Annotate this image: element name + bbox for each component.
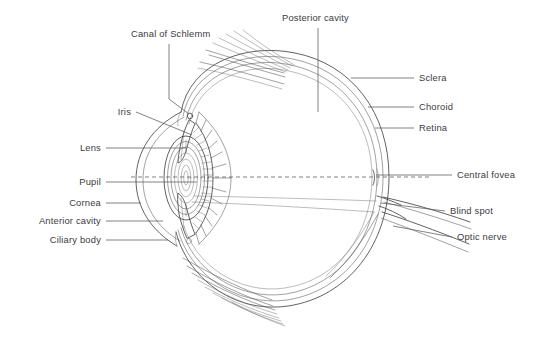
- muscle-fibre: [192, 273, 275, 310]
- iris-upper-fold: [181, 130, 184, 160]
- retinal-vessel-upper: [194, 196, 376, 201]
- label-canal-of-schlemm: Canal of Schlemm: [131, 28, 210, 39]
- muscle-fibre: [206, 50, 284, 73]
- leader-lines: [106, 28, 452, 240]
- ciliary-process: [196, 112, 199, 123]
- muscle-fibre: [198, 68, 282, 89]
- lens-lamella-4: [178, 159, 194, 197]
- leader-canal-of-schlemm: [169, 44, 189, 114]
- ciliary-process: [205, 130, 212, 140]
- ciliary-process: [211, 152, 222, 158]
- retinal-vessel-lower: [192, 202, 374, 212]
- label-retina: Retina: [419, 122, 448, 133]
- label-optic-nerve: Optic nerve: [457, 231, 507, 242]
- label-sclera: Sclera: [419, 72, 447, 83]
- eye-anatomy-diagram: Canal of Schlemm Posterior cavity Iris L…: [0, 0, 537, 344]
- muscle-fibre: [183, 258, 272, 300]
- label-posterior-cavity: Posterior cavity: [282, 12, 349, 23]
- label-central-fovea: Central fovea: [457, 169, 516, 180]
- ciliary-process: [212, 164, 226, 168]
- extraocular-muscle-upper: [198, 30, 294, 89]
- label-blind-spot: Blind spot: [450, 205, 493, 216]
- zonular-fibre: [195, 134, 202, 139]
- lens-lamella-5: [181, 165, 191, 191]
- ciliary-process: [205, 216, 212, 226]
- optic-nerve-lower-sheath-inner: [381, 218, 468, 252]
- muscle-fibre: [198, 280, 277, 314]
- ciliary-body-group: [193, 112, 231, 244]
- central-fovea-notch: [373, 170, 375, 185]
- choroid-outline: [178, 56, 383, 300]
- canal-of-schlemm-ring: [187, 113, 192, 119]
- lens-group: [164, 136, 208, 220]
- optic-nerve-group: [192, 169, 471, 278]
- ciliary-process: [212, 188, 226, 192]
- ciliary-process: [201, 120, 206, 131]
- zonular-fibre: [195, 217, 202, 222]
- zonular-fibre: [193, 127, 199, 133]
- label-iris: Iris: [118, 106, 131, 117]
- label-anterior-cavity: Anterior cavity: [39, 215, 101, 226]
- extraocular-muscle-lower: [183, 258, 285, 326]
- optic-nerve-sheath-descending: [330, 214, 378, 278]
- retina-outline: [181, 62, 377, 295]
- muscle-fibre: [234, 31, 292, 66]
- ciliary-process: [208, 207, 217, 215]
- muscle-fibre: [219, 38, 288, 70]
- retina-inner-hairline: [184, 68, 372, 289]
- ciliary-process: [208, 141, 217, 149]
- zonular-fibres: [193, 127, 213, 229]
- label-lens: Lens: [80, 142, 101, 153]
- lens-lamella-1: [168, 142, 205, 215]
- ciliary-process: [201, 225, 206, 236]
- zonular-fibre: [193, 223, 199, 229]
- lens-lamella-6: [184, 171, 188, 185]
- eye-cross-section-figure: Canal of Schlemm Posterior cavity Iris L…: [0, 0, 537, 344]
- lens-lamella-2: [171, 147, 201, 209]
- cornea-group: [136, 112, 184, 246]
- diagram-labels: Canal of Schlemm Posterior cavity Iris L…: [39, 12, 516, 245]
- leader-optic-nerve: [393, 226, 452, 237]
- ciliary-process: [196, 233, 199, 244]
- label-ciliary-body: Ciliary body: [50, 234, 101, 245]
- label-cornea: Cornea: [69, 197, 101, 208]
- label-choroid: Choroid: [419, 101, 453, 112]
- label-pupil: Pupil: [79, 176, 101, 187]
